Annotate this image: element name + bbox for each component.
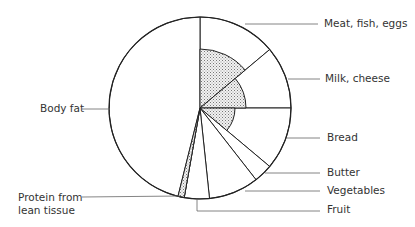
label-fruit: Fruit [327, 203, 350, 216]
label-protein-line1: Protein from [18, 191, 83, 204]
label-body-fat: Body fat [40, 102, 84, 115]
leader-fruit [197, 199, 320, 211]
pie-chart [109, 17, 291, 199]
label-milk: Milk, cheese [325, 72, 390, 85]
label-vegetables: Vegetables [327, 184, 385, 197]
leader-protein [82, 196, 180, 197]
label-protein-line2: lean tissue [18, 204, 75, 217]
label-meat: Meat, fish, eggs [324, 17, 407, 30]
label-butter: Butter [327, 166, 360, 179]
label-bread: Bread [327, 131, 358, 144]
